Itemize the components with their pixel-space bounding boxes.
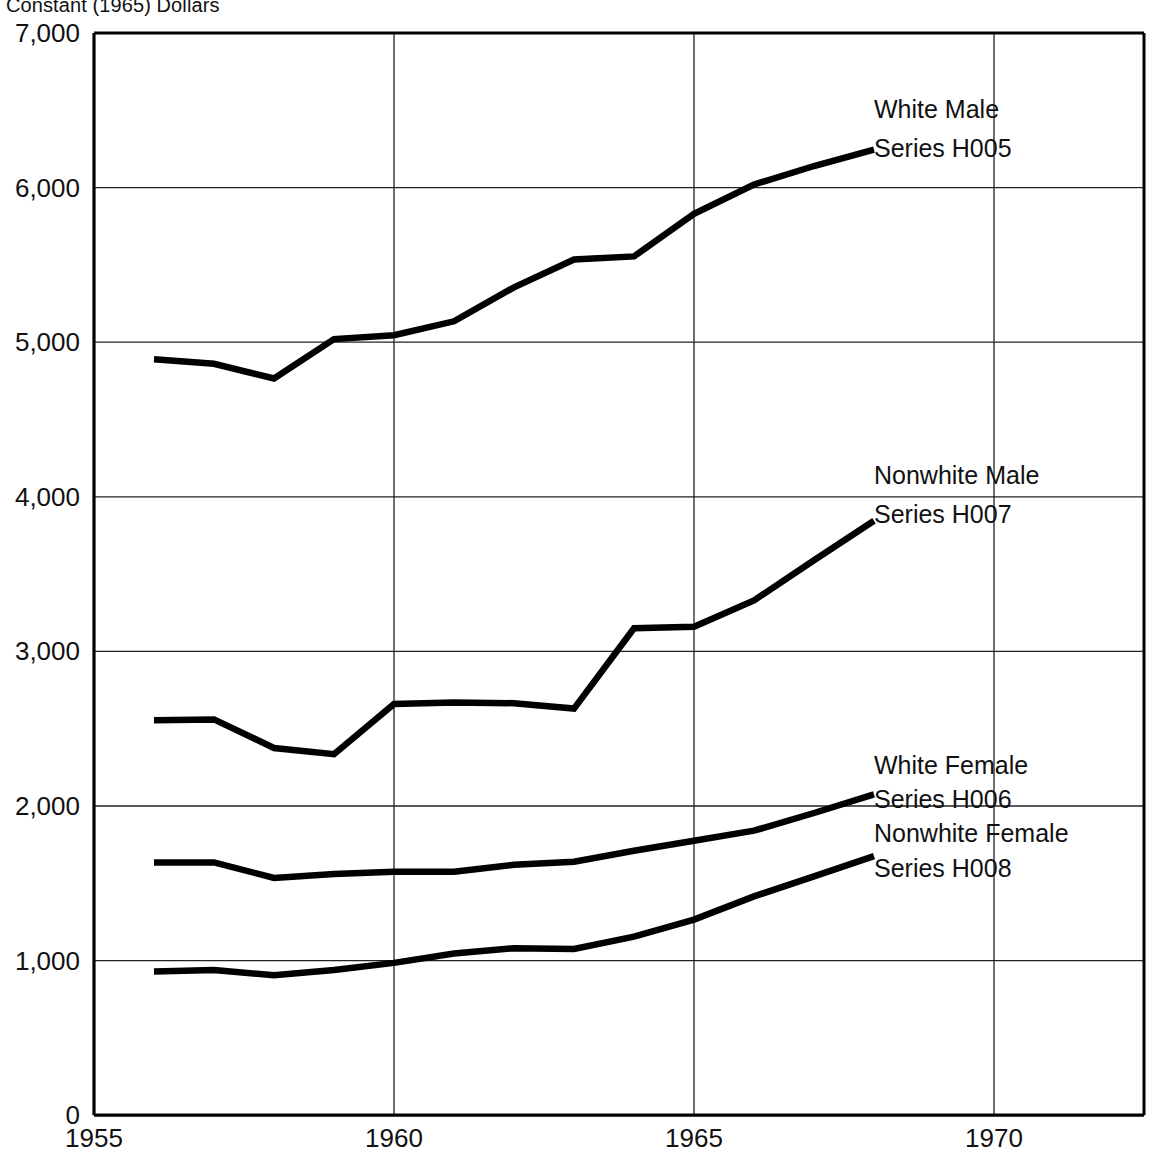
y-tick-label-2000: 2,000 [15, 791, 80, 821]
y-tick-label-5000: 5,000 [15, 327, 80, 357]
series-line-series-h007 [154, 521, 874, 754]
x-tick-label-1960: 1960 [365, 1123, 423, 1152]
series-line-series-h005 [154, 150, 874, 379]
y-tick-label-1000: 1,000 [15, 946, 80, 976]
x-tick-label-1965: 1965 [665, 1123, 723, 1152]
series-annotation-7: Series H008 [874, 854, 1012, 882]
series-annotations: White MaleSeries H005Nonwhite MaleSeries… [874, 95, 1069, 882]
series-annotation-0: White Male [874, 95, 999, 123]
series-annotation-6: Nonwhite Female [874, 819, 1069, 847]
y-tick-label-3000: 3,000 [15, 636, 80, 666]
x-axis-tick-labels: 1955196019651970 [65, 1123, 1023, 1152]
series-annotation-3: Series H007 [874, 500, 1012, 528]
series-annotation-2: Nonwhite Male [874, 461, 1039, 489]
series-annotation-5: Series H006 [874, 785, 1012, 813]
series-annotation-1: Series H005 [874, 134, 1012, 162]
y-axis-tick-labels: 01,0002,0003,0004,0005,0006,0007,000 [15, 18, 80, 1130]
plot-frame [94, 33, 1144, 1115]
line-chart-svg: 01,0002,0003,0004,0005,0006,0007,000 195… [0, 0, 1153, 1152]
x-tick-label-1970: 1970 [965, 1123, 1023, 1152]
chart-container: Constant (1965) Dollars 01,0002,0003,000… [0, 0, 1153, 1152]
x-tick-label-1955: 1955 [65, 1123, 123, 1152]
series-line-series-h006 [154, 794, 874, 878]
y-tick-label-4000: 4,000 [15, 482, 80, 512]
data-series-lines [154, 150, 874, 976]
series-annotation-4: White Female [874, 751, 1028, 779]
y-tick-label-6000: 6,000 [15, 173, 80, 203]
y-tick-label-7000: 7,000 [15, 18, 80, 48]
